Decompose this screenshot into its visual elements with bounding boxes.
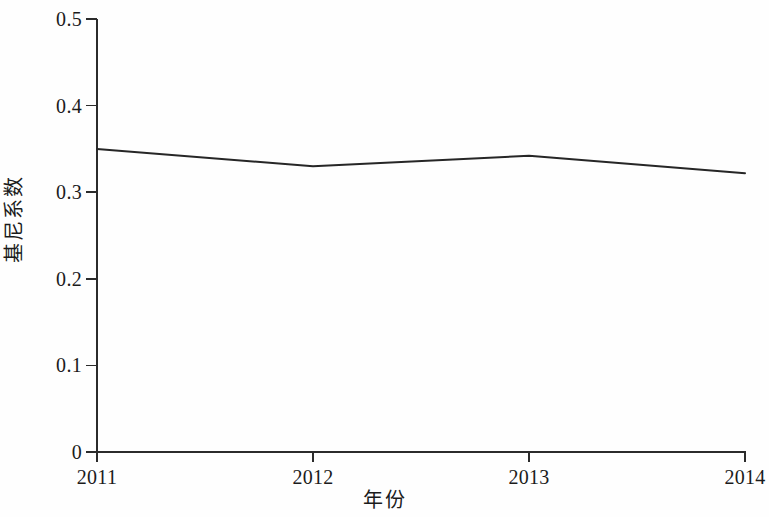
- y-axis-tick-label: 0.2: [30, 269, 82, 289]
- y-axis-tick: [86, 105, 97, 107]
- x-axis-tick-label: 2014: [700, 466, 769, 488]
- x-axis-tick-label: 2011: [52, 466, 142, 488]
- line-chart-figure: 0.50.40.30.20.10 2011201220132014 基尼系数 年…: [0, 0, 769, 517]
- y-axis-tick: [86, 365, 97, 367]
- y-axis-tick: [86, 191, 97, 193]
- x-axis-tick-label: 2012: [268, 466, 358, 488]
- x-axis-tick: [528, 452, 530, 462]
- y-axis-tick: [86, 278, 97, 280]
- x-axis-tick: [96, 452, 98, 462]
- y-axis-title: 基尼系数: [3, 149, 25, 289]
- y-axis-tick-label: 0.4: [30, 96, 82, 116]
- plot-area: [97, 19, 745, 452]
- y-axis-tick-label: 0.5: [30, 9, 82, 29]
- x-axis-tick-label: 2013: [484, 466, 574, 488]
- y-axis-tick-label: 0: [30, 442, 82, 462]
- x-axis-tick: [312, 452, 314, 462]
- gini-coefficient-line: [97, 149, 745, 173]
- y-axis-tick: [86, 18, 97, 20]
- y-axis-tick-label: 0.1: [30, 355, 82, 375]
- data-series-svg: [97, 19, 745, 452]
- y-axis-tick-label: 0.3: [30, 182, 82, 202]
- x-axis-tick: [744, 452, 746, 462]
- x-axis-title: 年份: [0, 488, 769, 512]
